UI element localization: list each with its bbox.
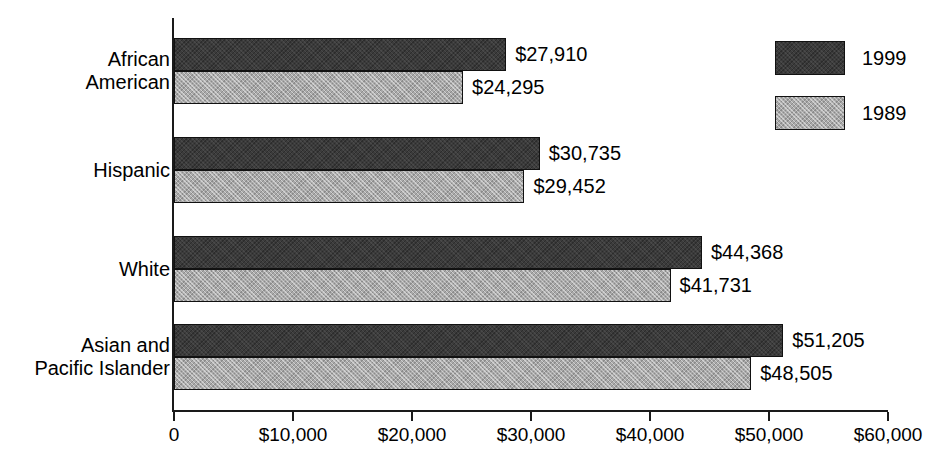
legend-swatch-1989 [775, 96, 845, 130]
legend-swatch-1999 [775, 41, 845, 75]
bar-1999-2[interactable] [174, 236, 702, 269]
category-label-line: Asian and [34, 334, 170, 357]
legend-label-1999: 1999 [862, 47, 907, 70]
x-axis-tick [173, 412, 175, 421]
category-label-line: Pacific Islander [34, 357, 170, 380]
x-axis-tick [292, 412, 294, 421]
bar-value-label: $41,731 [680, 274, 752, 297]
x-axis-tick-label: $60,000 [854, 424, 923, 446]
x-axis-tick-label: $20,000 [378, 424, 447, 446]
category-label-line: Hispanic [93, 159, 170, 182]
bar-1989-1[interactable] [174, 170, 524, 203]
bar-chart: 0$10,000$20,000$30,000$40,000$50,000$60,… [0, 0, 938, 468]
bar-value-label: $29,452 [533, 175, 605, 198]
category-label-line: African [86, 48, 170, 71]
category-label: AfricanAmerican [86, 48, 170, 94]
category-label: White [119, 258, 170, 281]
x-axis-tick [768, 412, 770, 421]
bar-value-label: $44,368 [711, 241, 783, 264]
x-axis-tick-label: $50,000 [735, 424, 804, 446]
x-axis-tick [887, 412, 889, 421]
category-label-line: White [119, 258, 170, 281]
x-axis-tick [411, 412, 413, 421]
x-axis-tick-label: $10,000 [259, 424, 328, 446]
category-label: Hispanic [93, 159, 170, 182]
category-label-line: American [86, 71, 170, 94]
bar-1999-0[interactable] [174, 38, 506, 71]
x-axis-tick-label: $40,000 [616, 424, 685, 446]
bar-value-label: $30,735 [549, 142, 621, 165]
x-axis-tick-label: 0 [169, 424, 180, 446]
bar-value-label: $51,205 [792, 329, 864, 352]
bar-1999-1[interactable] [174, 137, 540, 170]
category-label: Asian andPacific Islander [34, 334, 170, 380]
bar-value-label: $24,295 [472, 76, 544, 99]
x-axis-tick-label: $30,000 [497, 424, 566, 446]
bar-1989-3[interactable] [174, 357, 751, 390]
bar-value-label: $27,910 [515, 43, 587, 66]
bar-1989-0[interactable] [174, 71, 463, 104]
bar-1989-2[interactable] [174, 269, 671, 302]
x-axis-tick [649, 412, 651, 421]
bar-value-label: $48,505 [760, 362, 832, 385]
legend-label-1989: 1989 [862, 102, 907, 125]
bar-1999-3[interactable] [174, 324, 783, 357]
x-axis-tick [530, 412, 532, 421]
